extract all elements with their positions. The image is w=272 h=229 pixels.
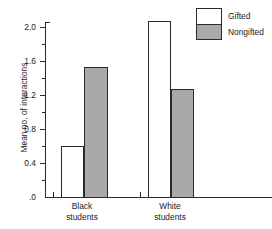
y-tick-label-0-0: .0 xyxy=(12,192,36,202)
x-axis-label-white-students: White students xyxy=(142,201,198,222)
legend-label-gifted: Gifted xyxy=(228,11,250,21)
y-tick-minor-1-8 xyxy=(42,44,46,45)
legend-item-nongifted: Nongifted xyxy=(196,24,264,40)
y-axis-top-cap xyxy=(45,22,50,23)
y-tick-label-1-2: 1.2 xyxy=(12,90,36,100)
x-group-separator-middle xyxy=(140,192,141,198)
y-tick-minor-0-6 xyxy=(42,146,46,147)
y-tick-major-1-2 xyxy=(40,95,46,96)
y-tick-label-1-6: 1.6 xyxy=(12,56,36,66)
y-tick-minor-1-4 xyxy=(42,78,46,79)
x-group-separator-left xyxy=(53,192,54,198)
y-tick-major-0-4 xyxy=(40,163,46,164)
bar-chart-figure: Mean no. of interactions 2.0 1.6 1.2 0.8… xyxy=(0,0,272,229)
y-tick-major-1-6 xyxy=(40,61,46,62)
bar-white-gifted xyxy=(148,21,171,198)
legend-swatch-nongifted-icon xyxy=(196,24,222,40)
bar-black-gifted xyxy=(61,146,84,198)
bar-black-nongifted xyxy=(84,67,108,198)
legend: Gifted Nongifted xyxy=(196,8,264,40)
y-axis-line xyxy=(45,22,46,198)
y-tick-label-2-0: 2.0 xyxy=(12,22,36,32)
legend-label-nongifted: Nongifted xyxy=(228,27,264,37)
y-tick-major-0-8 xyxy=(40,129,46,130)
y-tick-minor-1-0 xyxy=(42,112,46,113)
y-tick-minor-0-2 xyxy=(42,180,46,181)
x-axis-label-black-students: Black students xyxy=(54,201,110,222)
y-tick-label-0-8: 0.8 xyxy=(12,124,36,134)
y-tick-major-2-0 xyxy=(40,27,46,28)
y-tick-label-0-4: 0.4 xyxy=(12,158,36,168)
legend-item-gifted: Gifted xyxy=(196,8,264,24)
legend-swatch-gifted-icon xyxy=(196,8,222,24)
bar-white-nongifted xyxy=(171,89,194,198)
